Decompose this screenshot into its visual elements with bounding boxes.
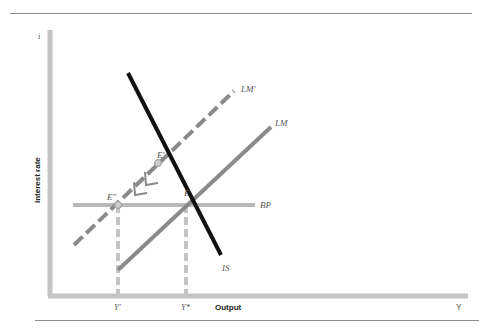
lm-label: LM [274,118,288,128]
point-e-label: E [183,188,190,198]
x-tick-y-prime: Y' [114,302,121,312]
point-e-prime-label: E' [156,150,165,160]
is-lm-bp-diagram: LM' LM BP IS E' E" E i Interest rate Y' … [0,0,487,330]
y-axis-symbol: i [38,31,41,41]
x-axis-label: Output [215,303,242,312]
bp-label: BP [260,200,271,210]
lm-shifted-label: LM' [240,84,257,94]
lm-shifted-curve [74,91,234,245]
point-e-double-prime-marker [115,202,122,209]
lm-curve [118,127,271,270]
point-e-double-prime-label: E" [106,192,116,202]
x-tick-y-star: Y* [181,302,191,312]
is-label: IS [221,263,230,273]
x-axis-symbol: Y [456,302,462,312]
is-curve [128,73,221,255]
point-e-prime-marker [155,160,162,167]
y-axis-label: Interest rate [33,157,42,203]
